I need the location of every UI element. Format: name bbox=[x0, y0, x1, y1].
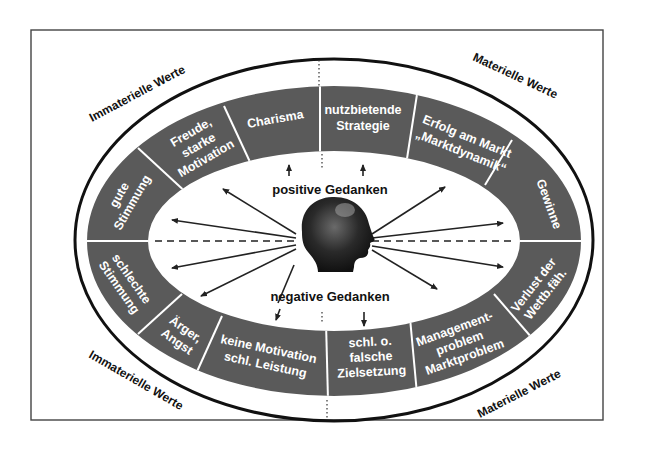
positive-thoughts-label: positive Gedanken bbox=[272, 182, 388, 197]
svg-text:schl. o.: schl. o. bbox=[348, 334, 392, 350]
negative-thoughts-label: negative Gedanken bbox=[270, 289, 389, 304]
svg-text:Strategie: Strategie bbox=[336, 119, 390, 133]
value-wheel-diagram: positive Gedanken negative Gedanken Imma… bbox=[0, 0, 665, 472]
svg-text:falsche: falsche bbox=[349, 349, 393, 365]
svg-text:nutzbietende: nutzbietende bbox=[324, 103, 401, 117]
